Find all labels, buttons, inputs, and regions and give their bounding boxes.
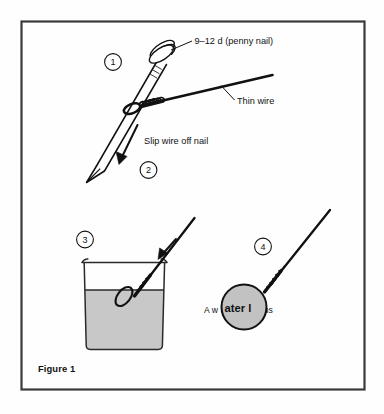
water-lens-label-before: A w [204, 305, 219, 315]
step-4-badge: 4 [255, 238, 272, 255]
figure-container: 1 [0, 0, 384, 414]
step-1-number: 1 [110, 57, 115, 67]
step-4-number: 4 [260, 242, 265, 252]
figure-diagram: 1 [0, 0, 384, 414]
figure-caption: Figure 1 [38, 363, 75, 374]
nail-spec-label: 9–12 d (penny nail) [195, 36, 274, 46]
step-3-number: 3 [82, 235, 87, 245]
step-3-badge: 3 [77, 231, 94, 248]
step-2-badge: 2 [140, 162, 157, 179]
thin-wire-label: Thin wire [237, 96, 274, 106]
beaker-water [85, 290, 164, 349]
slip-wire-label: Slip wire off nail [144, 136, 208, 146]
step-1-badge: 1 [105, 54, 122, 71]
figure-border [22, 22, 365, 390]
step-2-number: 2 [146, 165, 151, 175]
water-lens-label-magnified: ater l [225, 302, 252, 314]
